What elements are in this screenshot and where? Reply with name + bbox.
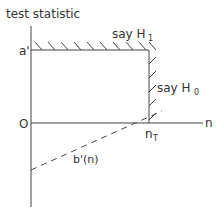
lower-boundary-label: b'(n) bbox=[73, 153, 99, 166]
truncation-label: n bbox=[145, 127, 153, 141]
sequential-test-diagram: test statistic a' O n say H 1 say H 0 n … bbox=[0, 0, 220, 216]
x-axis-label: n bbox=[205, 116, 213, 130]
region-h1-subscript: 1 bbox=[148, 34, 153, 43]
region-h1-label: say H bbox=[112, 27, 146, 41]
truncation-hatching bbox=[149, 57, 156, 120]
upper-threshold-label: a' bbox=[19, 44, 30, 58]
y-axis-label: test statistic bbox=[6, 7, 80, 21]
origin-label: O bbox=[19, 117, 28, 131]
truncation-subscript: T bbox=[152, 134, 158, 143]
upper-boundary-hatching bbox=[35, 42, 156, 50]
region-h0-label: say H bbox=[157, 81, 191, 95]
region-h0-subscript: 0 bbox=[194, 88, 199, 97]
